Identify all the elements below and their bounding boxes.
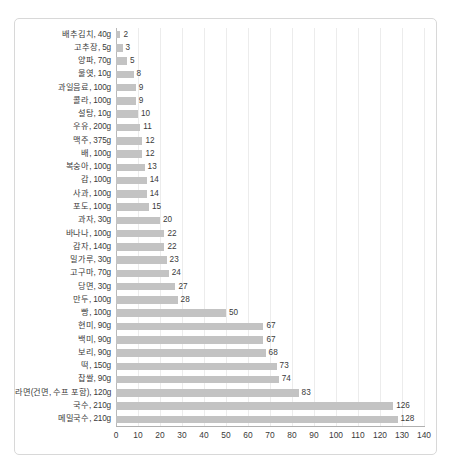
x-tick-label: 50	[221, 431, 230, 439]
category-label: 고추장, 5g	[15, 44, 111, 52]
bar[interactable]	[116, 256, 167, 264]
x-tick-label: 40	[199, 431, 208, 439]
x-tick-label: 0	[114, 431, 119, 439]
bar-value-label: 2	[123, 31, 128, 39]
bar-row: 밀가루, 30g23	[15, 254, 436, 267]
bar-container: 73	[116, 360, 436, 373]
bar[interactable]	[116, 71, 134, 79]
bar-row: 사과, 100g14	[15, 187, 436, 200]
bar-container: 14	[116, 187, 436, 200]
bar-row: 바나나, 100g22	[15, 227, 436, 240]
bar[interactable]	[116, 389, 299, 397]
bar-row: 백미, 90g67	[15, 333, 436, 346]
bar[interactable]	[116, 349, 266, 357]
bar-container: 67	[116, 333, 436, 346]
bar-row: 국수, 210g126	[15, 399, 436, 412]
bar-value-label: 15	[152, 203, 161, 211]
bar-container: 22	[116, 227, 436, 240]
bar-row: 포도, 100g15	[15, 200, 436, 213]
bar[interactable]	[116, 97, 136, 105]
bar-row: 당면, 30g27	[15, 280, 436, 293]
bar[interactable]	[116, 190, 147, 198]
category-label: 맥주, 375g	[15, 137, 111, 145]
bar[interactable]	[116, 309, 226, 317]
bar-container: 8	[116, 68, 436, 81]
bar[interactable]	[116, 323, 263, 331]
bar-value-label: 23	[170, 256, 179, 264]
bar-row: 보리, 90g68	[15, 346, 436, 359]
bar[interactable]	[116, 283, 175, 291]
x-tick-label: 10	[133, 431, 142, 439]
bar-container: 24	[116, 267, 436, 280]
x-axis-tick-labels: 0102030405060708090100110120130140	[116, 429, 424, 445]
category-label: 감, 100g	[15, 176, 111, 184]
bar-container: 28	[116, 293, 436, 306]
bar-row: 설탕, 10g10	[15, 108, 436, 121]
bar[interactable]	[116, 44, 123, 52]
bar-row: 배, 100g12	[15, 147, 436, 160]
bar-value-label: 67	[266, 322, 275, 330]
category-label: 현미, 90g	[15, 322, 111, 330]
bar[interactable]	[116, 137, 142, 145]
bar-row: 양파, 70g5	[15, 55, 436, 68]
bar[interactable]	[116, 230, 164, 238]
bar-container: 2	[116, 28, 436, 41]
category-label: 복숭아, 100g	[15, 163, 111, 171]
category-label: 고구마, 70g	[15, 269, 111, 277]
bar[interactable]	[116, 84, 136, 92]
category-label: 우유, 200g	[15, 123, 111, 131]
bar-value-label: 50	[229, 309, 238, 317]
bar-value-label: 73	[280, 362, 289, 370]
bar[interactable]	[116, 402, 393, 410]
bar-container: 3	[116, 41, 436, 54]
bar[interactable]	[116, 217, 160, 225]
x-tick-label: 30	[177, 431, 186, 439]
bar[interactable]	[116, 203, 149, 211]
bar[interactable]	[116, 376, 279, 384]
category-label: 빵, 100g	[15, 309, 111, 317]
bar[interactable]	[116, 270, 169, 278]
bar-row: 물엿, 10g8	[15, 68, 436, 81]
chart-plot-container: 배추김치, 40g2고추장, 5g3양파, 70g5물엿, 10g8과일음료, …	[15, 19, 436, 454]
chart-screenshot: 배추김치, 40g2고추장, 5g3양파, 70g5물엿, 10g8과일음료, …	[0, 0, 451, 472]
bar-row: 라면(건면, 수프 포함), 120g83	[15, 386, 436, 399]
category-label: 라면(건면, 수프 포함), 120g	[15, 389, 111, 397]
category-label: 보리, 90g	[15, 349, 111, 357]
bar-value-label: 13	[148, 163, 157, 171]
x-tick-label: 20	[155, 431, 164, 439]
bar[interactable]	[116, 243, 164, 251]
bar-container: 50	[116, 307, 436, 320]
x-tick-label: 110	[351, 431, 364, 439]
x-tick-label: 120	[373, 431, 387, 439]
bar-value-label: 83	[302, 389, 311, 397]
category-label: 메밀국수, 210g	[15, 415, 111, 423]
bar[interactable]	[116, 363, 277, 371]
bar[interactable]	[116, 57, 127, 65]
bar[interactable]	[116, 164, 145, 172]
chart-card: 배추김치, 40g2고추장, 5g3양파, 70g5물엿, 10g8과일음료, …	[14, 18, 437, 455]
bar[interactable]	[116, 416, 398, 424]
bar[interactable]	[116, 336, 263, 344]
bar-row: 과일음료, 100g9	[15, 81, 436, 94]
bar-value-label: 9	[139, 97, 144, 105]
category-label: 떡, 150g	[15, 362, 111, 370]
bar-rows: 배추김치, 40g2고추장, 5g3양파, 70g5물엿, 10g8과일음료, …	[15, 28, 436, 426]
bar-container: 20	[116, 214, 436, 227]
x-tick-label: 80	[287, 431, 296, 439]
bar-container: 126	[116, 399, 436, 412]
bar-row: 과자, 30g20	[15, 214, 436, 227]
bar-value-label: 126	[396, 402, 410, 410]
bar[interactable]	[116, 124, 140, 132]
x-tick-label: 70	[265, 431, 274, 439]
bar[interactable]	[116, 296, 178, 304]
x-axis-line	[116, 426, 425, 427]
category-label: 국수, 210g	[15, 402, 111, 410]
bar[interactable]	[116, 110, 138, 118]
bar-value-label: 9	[139, 84, 144, 92]
bar-value-label: 68	[269, 349, 278, 357]
bar[interactable]	[116, 177, 147, 185]
category-label: 포도, 100g	[15, 203, 111, 211]
bar[interactable]	[116, 31, 120, 39]
bar[interactable]	[116, 150, 142, 158]
x-tick-label: 130	[395, 431, 409, 439]
